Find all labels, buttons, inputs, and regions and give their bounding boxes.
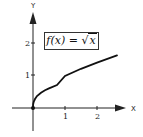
y-tick-label-2: 2 bbox=[25, 39, 30, 48]
y-tick-label-1: 1 bbox=[25, 71, 30, 80]
origin-point bbox=[31, 106, 35, 110]
x-tick-label-2: 2 bbox=[95, 112, 100, 121]
formula-lhs: f(x) = bbox=[46, 34, 81, 47]
formula-box: f(x) = √x bbox=[44, 32, 99, 50]
sqrt-curve bbox=[33, 55, 117, 108]
sqrt-function-graph: X Y 1 2 1 2 bbox=[0, 0, 143, 137]
y-axis-arrow-icon bbox=[30, 12, 37, 24]
x-tick-label-1: 1 bbox=[63, 112, 68, 121]
formula-radicand: x bbox=[88, 33, 96, 47]
x-axis-label: X bbox=[131, 105, 136, 113]
x-axis-arrow-icon bbox=[115, 105, 126, 112]
y-axis-label: Y bbox=[30, 2, 36, 10]
